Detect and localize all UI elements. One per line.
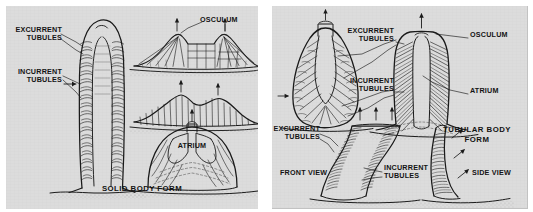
label-side-view: SIDE VIEW — [472, 169, 511, 177]
panel-tubular-body-form: EXCURRENT TUBULES INCURRENT TUBULES OSCU… — [272, 6, 528, 209]
label-atrium-tubular: ATRIUM — [470, 87, 499, 95]
label-incurrent-tubules-tubular: INCURRENT TUBULES — [340, 77, 394, 94]
figure-canvas: EXCURRENT TUBULES INCURRENT TUBULES OSCU… — [0, 0, 533, 212]
label-incurrent-tubules-solid: INCURRENT TUBULES — [10, 68, 62, 85]
label-excurrent-tubules-vase: EXCURRENT TUBULES — [272, 125, 320, 142]
label-excurrent-tubules-tubular: EXCURRENT TUBULES — [340, 27, 394, 44]
caption-tubular-body-form: TUBULAR BODY FORM — [430, 125, 524, 144]
label-atrium-solid: ATRIUM — [166, 142, 218, 150]
label-excurrent-tubules-solid: EXCURRENT TUBULES — [10, 26, 62, 43]
caption-solid-body-form: SOLID BODY FORM — [72, 184, 212, 194]
label-front-view: FRONT VIEW — [280, 169, 327, 177]
label-osculum-tubular: OSCULUM — [470, 31, 508, 39]
label-incurrent-tubules-vase: INCURRENT TUBULES — [384, 164, 428, 181]
label-osculum-solid: OSCULUM — [200, 16, 238, 24]
panel-solid-body-form: EXCURRENT TUBULES INCURRENT TUBULES OSCU… — [6, 6, 258, 209]
